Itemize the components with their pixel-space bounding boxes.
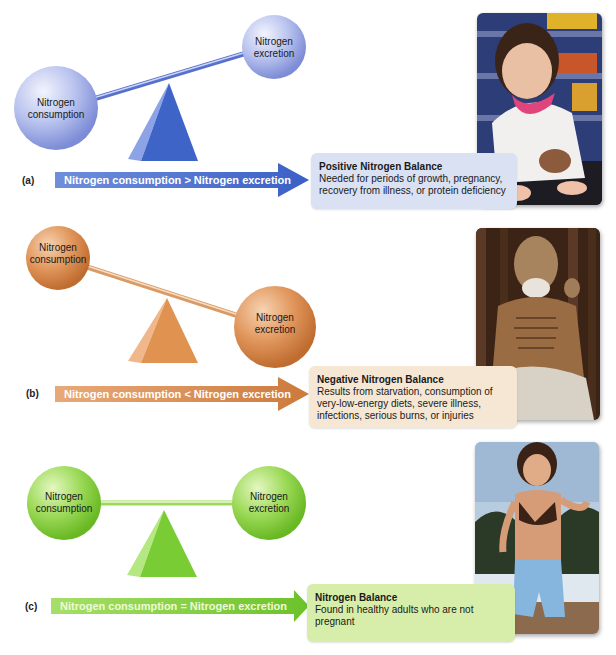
panel-letter: (b) [26, 388, 39, 399]
panel-nitrogen-balance: Nitrogen consumption Nitrogen excretion … [0, 435, 616, 655]
panel-letter: (c) [25, 601, 37, 612]
arrow-label: Nitrogen consumption < Nitrogen excretio… [64, 388, 291, 400]
excretion-ball-label: Nitrogen excretion [245, 312, 305, 336]
info-box-balance: Nitrogen Balance Found in healthy adults… [307, 584, 515, 642]
consumption-ball-label: Nitrogen consumption [24, 491, 104, 515]
excretion-ball-label: Nitrogen excretion [239, 491, 299, 515]
panel-letter: (a) [22, 175, 34, 186]
info-box-title: Negative Nitrogen Balance [317, 374, 509, 386]
excretion-ball-label: Nitrogen excretion [244, 36, 304, 60]
consumption-ball-label: Nitrogen consumption [16, 97, 96, 121]
arrow-label: Nitrogen consumption = Nitrogen excretio… [60, 600, 287, 612]
arrow-label: Nitrogen consumption > Nitrogen excretio… [64, 174, 291, 186]
panel-negative-balance: Nitrogen consumption Nitrogen excretion … [0, 220, 616, 435]
panel-positive-balance: Nitrogen consumption Nitrogen excretion … [0, 0, 616, 215]
info-box-positive: Positive Nitrogen Balance Needed for per… [311, 153, 517, 209]
info-box-title: Positive Nitrogen Balance [319, 161, 509, 173]
consumption-ball-label: Nitrogen consumption [18, 242, 98, 266]
info-box-title: Nitrogen Balance [315, 592, 507, 604]
info-box-negative: Negative Nitrogen Balance Results from s… [309, 366, 517, 428]
